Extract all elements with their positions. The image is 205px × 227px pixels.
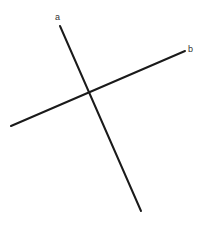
line-b-label: b xyxy=(188,44,193,54)
line-a-label: a xyxy=(55,12,60,22)
line-a xyxy=(60,26,141,211)
intersecting-lines-diagram: a b xyxy=(0,0,205,227)
